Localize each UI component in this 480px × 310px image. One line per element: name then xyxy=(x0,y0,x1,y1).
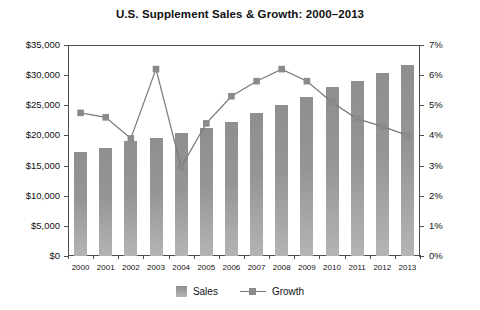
growth-marker xyxy=(404,132,411,139)
x-axis-tick xyxy=(420,255,421,259)
growth-marker xyxy=(329,99,336,106)
y-axis-right-label: 7% xyxy=(429,39,459,50)
chart-container: U.S. Supplement Sales & Growth: 2000–201… xyxy=(0,0,480,310)
growth-marker xyxy=(203,120,210,127)
y-axis-left-label: $30,000 xyxy=(2,69,60,80)
legend-label-sales: Sales xyxy=(193,286,218,297)
legend-line-growth-icon xyxy=(240,286,266,297)
growth-marker xyxy=(253,78,260,85)
y-axis-right-label: 1% xyxy=(429,220,459,231)
y-axis-left-label: $20,000 xyxy=(2,129,60,140)
chart-legend: Sales Growth xyxy=(0,286,480,297)
chart-title: U.S. Supplement Sales & Growth: 2000–201… xyxy=(0,8,480,20)
y-axis-left-label: $15,000 xyxy=(2,160,60,171)
growth-marker xyxy=(379,123,386,130)
y-axis-right-label: 4% xyxy=(429,129,459,140)
growth-marker xyxy=(77,110,84,117)
growth-marker xyxy=(354,116,361,123)
growth-marker xyxy=(178,164,185,171)
y-axis-right-label: 0% xyxy=(429,250,459,261)
y-axis-left-label: $0 xyxy=(2,250,60,261)
legend-label-growth: Growth xyxy=(272,286,304,297)
growth-marker xyxy=(153,66,160,73)
y-axis-right-label: 3% xyxy=(429,160,459,171)
legend-swatch-sales-icon xyxy=(176,286,187,297)
y-axis-left-label: $25,000 xyxy=(2,99,60,110)
y-axis-left-label: $5,000 xyxy=(2,220,60,231)
growth-marker xyxy=(304,78,311,85)
line-series-growth xyxy=(68,45,420,256)
y-axis-right-label: 5% xyxy=(429,99,459,110)
y-axis-left-label: $35,000 xyxy=(2,39,60,50)
legend-item-growth: Growth xyxy=(240,286,304,297)
growth-marker xyxy=(278,66,285,73)
legend-item-sales: Sales xyxy=(176,286,218,297)
y-axis-right-label: 2% xyxy=(429,190,459,201)
growth-marker xyxy=(102,114,109,121)
growth-marker xyxy=(228,93,235,100)
y-axis-right-label: 6% xyxy=(429,69,459,80)
y-axis-left-label: $10,000 xyxy=(2,190,60,201)
plot-area xyxy=(68,45,420,256)
growth-marker xyxy=(128,135,135,142)
x-axis-label: 2013 xyxy=(387,263,427,272)
